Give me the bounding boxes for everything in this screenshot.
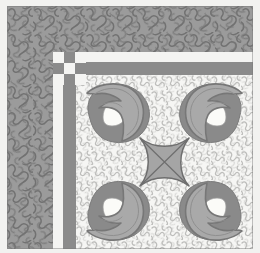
quilt-canvas	[0, 0, 260, 253]
block-edge-outline	[7, 6, 253, 249]
